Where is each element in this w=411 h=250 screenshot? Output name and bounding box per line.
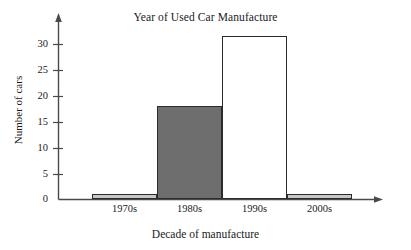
bar-2000s[interactable] [287,194,352,199]
y-tick-label-5: 5 [22,169,48,179]
x-tick-label-1990s: 1990s [222,203,287,214]
y-tick-label-30: 30 [22,39,48,49]
x-axis-arrowhead [374,196,383,203]
y-tick-label-0: 0 [22,194,48,204]
chart-title: Year of Used Car Manufacture [0,11,411,23]
x-tick-label-1980s: 1980s [157,203,222,214]
x-tick-label-1970s: 1970s [92,203,157,214]
y-tick-label-15: 15 [22,117,48,127]
x-axis-label: Decade of manufacture [0,228,411,240]
bar-chart: Year of Used Car Manufacture Number of c… [0,0,411,250]
y-tick-label-20: 20 [22,91,48,101]
bar-1980s[interactable] [157,106,222,200]
y-tick-label-10: 10 [22,143,48,153]
y-tick-marks [53,45,63,175]
x-tick-label-2000s: 2000s [287,203,352,214]
bar-1990s[interactable] [222,36,287,200]
y-tick-label-25: 25 [22,65,48,75]
bar-1970s[interactable] [92,194,157,199]
